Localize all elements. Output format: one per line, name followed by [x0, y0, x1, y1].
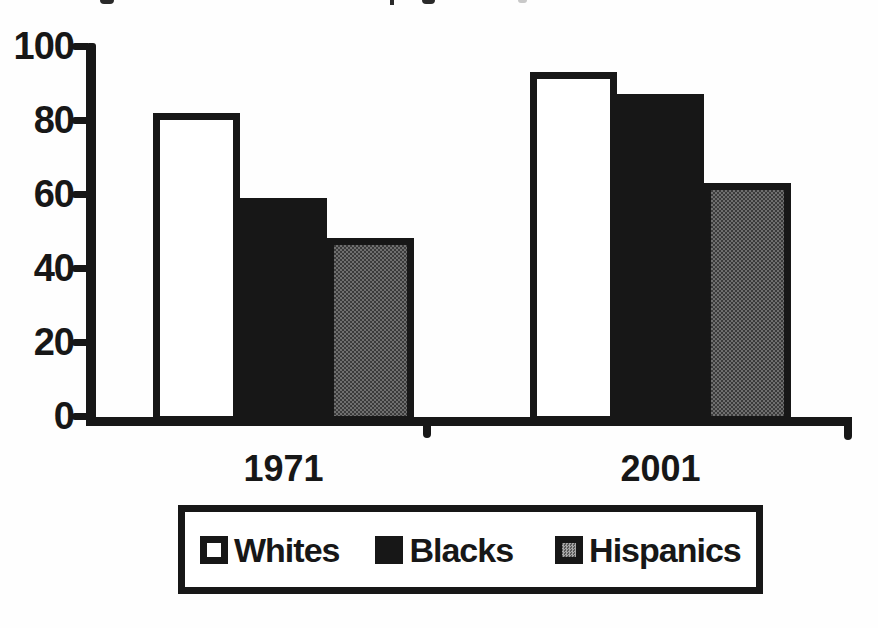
- bar-whites-1971: [153, 113, 240, 423]
- cropped-caption-fragment: [100, 0, 114, 4]
- legend-item-hispanics: Hispanics: [555, 533, 741, 567]
- legend-box: Whites Blacks Hispanics: [178, 505, 763, 594]
- legend-swatch-blacks-icon: [375, 536, 403, 564]
- legend-label-whites: Whites: [234, 533, 339, 567]
- y-axis-tick-label: 40: [4, 249, 74, 287]
- bar-chart-figure: 10080604020019712001 Whites Blacks Hispa…: [0, 0, 878, 628]
- y-axis-tick: [72, 265, 88, 272]
- y-axis-tick: [72, 191, 88, 198]
- y-axis-tick-label: 20: [4, 323, 74, 361]
- y-axis-tick: [72, 117, 88, 124]
- y-axis-tick-label: 0: [4, 397, 74, 435]
- x-axis-category-label: 2001: [551, 449, 771, 489]
- cropped-caption-fragment: [390, 0, 394, 5]
- y-axis-tick-label: 60: [4, 175, 74, 213]
- x-axis-category-label: 1971: [174, 449, 394, 489]
- bar-hispanics-2001: [704, 183, 791, 423]
- bar-blacks-1971: [240, 198, 327, 423]
- cropped-caption-fragment: [422, 0, 435, 4]
- bar-hispanics-1971: [327, 238, 414, 423]
- y-axis-tick-label: 80: [4, 101, 74, 139]
- y-axis-tick: [72, 43, 88, 50]
- y-axis-tick-label: 100: [4, 27, 74, 65]
- legend-label-hispanics: Hispanics: [589, 533, 741, 567]
- legend-item-whites: Whites: [200, 533, 339, 567]
- bar-blacks-2001: [617, 94, 704, 423]
- y-axis-tick: [72, 413, 88, 420]
- x-axis-category-separator-tick: [423, 417, 431, 438]
- y-axis-line: [86, 43, 96, 426]
- bar-whites-2001: [530, 72, 617, 423]
- x-axis-end-tick: [844, 417, 852, 440]
- legend-swatch-hispanics-icon: [555, 536, 583, 564]
- legend-item-blacks: Blacks: [375, 533, 513, 567]
- cropped-caption-fragment: [518, 0, 527, 3]
- y-axis-tick: [72, 339, 88, 346]
- legend-label-blacks: Blacks: [409, 533, 513, 567]
- legend-swatch-whites-icon: [200, 536, 228, 564]
